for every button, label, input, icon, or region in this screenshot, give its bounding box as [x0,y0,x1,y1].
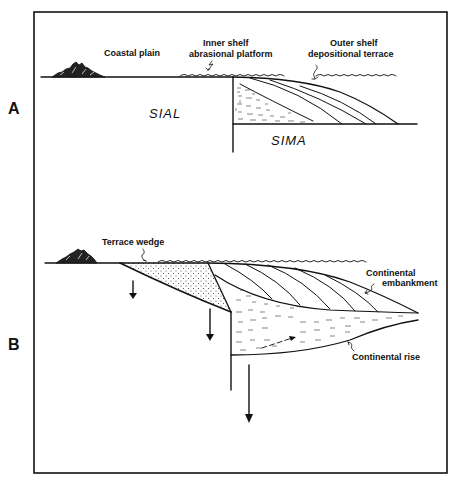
panel-label-b: B [8,336,20,353]
rise-base [231,320,418,355]
sediment-dashes [236,88,305,122]
label-sima: SIMA [271,133,307,148]
foreset-line [240,84,313,121]
label-continental-embankment-2: embankment [382,278,438,288]
label-coastal-plain: Coastal plain [104,48,160,58]
sediment-flow-arrow [262,338,292,348]
mountains-icon [56,249,97,263]
foreset-line [225,264,272,299]
label-abrasional-platform: abrasional platform [189,49,273,59]
foreset-line [245,264,300,305]
rise-dashes [236,290,403,350]
arrow-down-icon [129,293,137,299]
foreset-line [270,80,366,124]
arrow-down-icon [206,334,214,341]
sea-surface [158,261,366,263]
pointer-arrow [206,61,213,70]
foreset-line [250,78,342,124]
figure-frame [34,12,447,473]
panel-label-a: A [8,100,20,117]
arrow-down-icon [245,414,253,423]
sea-surface [180,75,396,77]
label-sial: SIAL [149,106,181,121]
pointer-arrow [312,65,318,79]
label-continental-rise: Continental rise [352,352,420,362]
label-terrace-wedge: Terrace wedge [102,237,164,247]
label-depositional-terrace: depositional terrace [308,49,394,59]
panel-a: A Coastal plain Inner shelf abrasional p… [8,38,417,152]
label-inner-shelf: Inner shelf [203,38,250,48]
panel-b: B [8,237,438,423]
arrowhead-icon [289,336,296,341]
label-continental-embankment-1: Continental [366,268,416,278]
terrace-top [233,77,398,124]
pointer-arrow [348,342,354,351]
geologic-diagram: A Coastal plain Inner shelf abrasional p… [0,0,459,487]
pointer-arrow [142,249,146,261]
label-outer-shelf: Outer shelf [330,38,379,48]
